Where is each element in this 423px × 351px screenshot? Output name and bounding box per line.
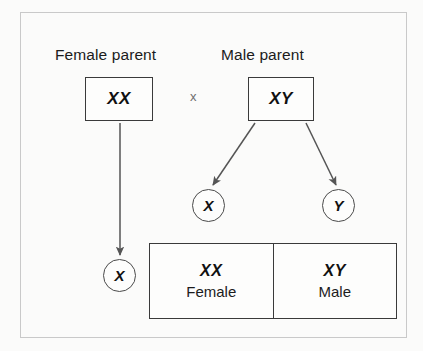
gamete-circle-paternal-y: Y (322, 189, 355, 222)
gamete-maternal-x-label: X (114, 267, 124, 284)
female-parent-label: Female parent (55, 46, 156, 64)
offspring-female-genotype: XX (200, 262, 222, 280)
gamete-circle-paternal-x: X (192, 189, 225, 222)
female-parent-genotype-text: XX (107, 89, 131, 109)
offspring-cell-male: XY Male (273, 244, 397, 318)
offspring-cell-female: XX Female (150, 244, 273, 318)
male-parent-label: Male parent (221, 46, 304, 64)
male-parent-genotype-box: XY (248, 77, 314, 121)
offspring-female-sex: Female (186, 283, 236, 300)
male-parent-genotype-text: XY (269, 89, 293, 109)
gamete-paternal-y-label: Y (333, 197, 343, 214)
gamete-paternal-x-label: X (203, 197, 213, 214)
offspring-table: XX Female XY Male (149, 243, 397, 319)
gamete-circle-maternal-x: X (103, 259, 136, 292)
female-parent-genotype-box: XX (85, 77, 153, 121)
cross-symbol: x (190, 89, 197, 104)
sex-determination-diagram: Female parent Male parent XX XY x X X Y (0, 0, 423, 351)
offspring-male-sex: Male (318, 283, 351, 300)
offspring-male-genotype: XY (324, 262, 346, 280)
